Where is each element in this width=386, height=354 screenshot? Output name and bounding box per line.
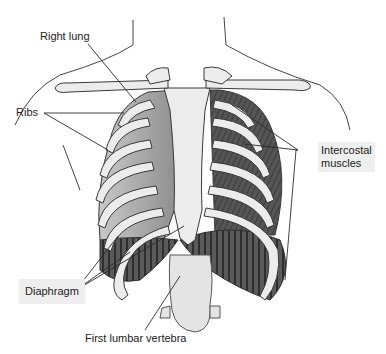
label-intercostal-muscles: Intercostal muscles xyxy=(318,142,375,172)
label-right-lung: Right lung xyxy=(40,30,90,43)
label-ribs: Ribs xyxy=(16,106,38,119)
label-intercostal-line2: muscles xyxy=(321,157,372,170)
label-diaphragm: Diaphragm xyxy=(19,279,85,304)
label-first-lumbar-vertebra: First lumbar vertebra xyxy=(85,332,186,345)
label-intercostal-line1: Intercostal xyxy=(321,144,372,157)
